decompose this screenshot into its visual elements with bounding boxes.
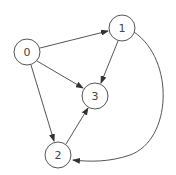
node-2: 2	[45, 142, 71, 168]
node-label: 2	[55, 149, 62, 162]
edge-0-2	[31, 65, 54, 141]
edge-1-3	[101, 41, 118, 83]
node-0: 0	[14, 39, 40, 65]
node-1: 1	[109, 15, 135, 41]
node-3: 3	[82, 83, 108, 109]
node-label: 0	[24, 46, 31, 59]
node-label: 1	[119, 22, 126, 35]
edge-2-3	[66, 108, 88, 144]
directed-graph: 0 1 2 3	[0, 0, 176, 175]
edge-0-1	[40, 31, 108, 48]
node-label: 3	[92, 90, 99, 103]
edge-0-3	[37, 61, 83, 88]
